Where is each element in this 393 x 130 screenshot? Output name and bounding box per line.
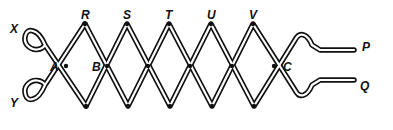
label-u: U: [207, 9, 216, 21]
label-t: T: [165, 9, 172, 21]
lazy-tongs-diagram: X Y R S T U V A B C P Q: [0, 0, 393, 130]
label-v: V: [249, 9, 257, 21]
label-s: S: [123, 9, 131, 21]
label-x: X: [10, 23, 18, 35]
label-c: C: [283, 61, 292, 73]
label-r: R: [81, 9, 90, 21]
label-p: P: [362, 41, 370, 53]
label-b: B: [92, 61, 101, 73]
label-a: A: [50, 61, 59, 73]
label-q: Q: [360, 80, 369, 92]
label-y: Y: [10, 97, 18, 109]
